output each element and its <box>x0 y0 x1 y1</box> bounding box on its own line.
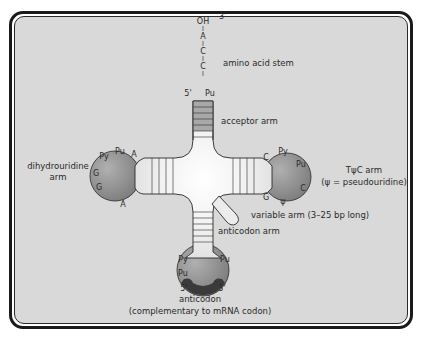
label-dihydrouridine-arm-1: dihydrouridine <box>27 161 89 171</box>
label-variable-arm: variable arm (3–25 bp long) <box>251 210 369 220</box>
nt-a: A <box>200 32 206 41</box>
d-nt-g2: G <box>96 183 102 192</box>
ac-nt-pu-right: Pu <box>220 255 230 264</box>
variable-arm <box>212 196 239 225</box>
five-prime-label: 5' <box>184 89 191 98</box>
t-nt-psi: ψ <box>280 197 285 206</box>
d-nt-a-top: A <box>131 150 137 159</box>
d-nt-g1: G <box>93 169 99 178</box>
ac-nt-pu-left: Pu <box>178 269 188 278</box>
t-nt-c-top: C <box>263 153 269 162</box>
label-anticodon-1: anticodon <box>179 294 221 304</box>
label-acceptor-arm: acceptor arm <box>221 116 278 126</box>
label-amino-acid-stem: amino acid stem <box>223 58 294 68</box>
label-dihydrouridine-arm-2: arm <box>50 172 67 182</box>
nt-pu: Pu <box>205 89 215 98</box>
d-nt-py: Py <box>99 152 109 161</box>
t-nt-g: G <box>263 193 269 202</box>
label-tpsic-arm-1: TψC arm <box>345 165 382 175</box>
amino-acid-stem: OH 3' A C C Pu 5' <box>184 12 226 98</box>
ac-three-prime: 3' <box>218 284 225 293</box>
trna-diagram: OH 3' A C C Pu 5' amino acid stem accept… <box>0 0 424 338</box>
d-nt-a-bottom: A <box>120 200 126 209</box>
ac-nt-py: Py <box>178 255 188 264</box>
oh-label: OH <box>197 17 209 26</box>
three-prime-label: 3' <box>219 12 226 21</box>
nt-c2: C <box>200 62 206 71</box>
label-anticodon-2: (complementary to mRNA codon) <box>129 306 272 316</box>
t-nt-py: Py <box>278 147 288 156</box>
label-tpsic-arm-2: (ψ = pseudouridine) <box>321 177 406 187</box>
label-anticodon-arm: anticodon arm <box>218 226 280 236</box>
ac-five-prime: 5' <box>180 284 187 293</box>
t-nt-pu: Pu <box>296 160 306 169</box>
d-nt-pu: Pu <box>115 147 125 156</box>
nt-c1: C <box>200 47 206 56</box>
t-nt-c-right: C <box>300 184 306 193</box>
